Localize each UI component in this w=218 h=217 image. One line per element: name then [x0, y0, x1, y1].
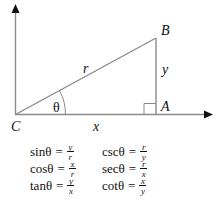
- numerator: x: [140, 177, 146, 185]
- vertex-label-c: C: [11, 120, 20, 134]
- fraction: x r: [69, 160, 76, 178]
- vertex-label-b: B: [161, 24, 170, 38]
- numerator: x: [69, 160, 75, 168]
- hypotenuse-r: [16, 38, 157, 115]
- equals-sign: =: [129, 144, 136, 160]
- function-name: cotθ: [102, 178, 124, 194]
- triangle-svg: [0, 0, 218, 140]
- side-label-x: x: [93, 120, 99, 134]
- formula-cot: cotθ = x y: [102, 177, 146, 194]
- equals-sign: =: [58, 161, 65, 177]
- fraction: y x: [67, 177, 74, 195]
- numerator: y: [67, 143, 73, 151]
- function-name: cscθ: [102, 144, 125, 160]
- equals-sign: =: [128, 178, 135, 194]
- function-name: cosθ: [30, 161, 54, 177]
- function-name: secθ: [102, 161, 125, 177]
- denominator: x: [68, 187, 74, 195]
- numerator: r: [141, 143, 147, 151]
- function-name: tanθ: [30, 178, 52, 194]
- x-axis-arrow-icon: [204, 111, 213, 119]
- denominator: y: [140, 187, 146, 195]
- formula-csc: cscθ = r y: [102, 143, 147, 160]
- formula-row-cos-sec: cosθ = x r secθ = r x: [30, 160, 210, 177]
- triangle-diagram: B y A r θ C x: [0, 0, 218, 140]
- formula-row-tan-cot: tanθ = y x cotθ = x y: [30, 177, 210, 194]
- side-label-r: r: [83, 62, 88, 76]
- right-angle-marker: [144, 104, 156, 115]
- side-label-y: y: [162, 63, 168, 77]
- fraction: r x: [140, 160, 147, 178]
- formula-sin: sinθ = y r: [30, 143, 74, 160]
- equals-sign: =: [55, 144, 62, 160]
- vertex-label-a: A: [161, 100, 170, 114]
- formula-tan: tanθ = y x: [30, 177, 74, 194]
- fraction: x y: [139, 177, 146, 195]
- formula-row-sin-csc: sinθ = y r cscθ = r y: [30, 143, 210, 160]
- equals-sign: =: [56, 178, 63, 194]
- angle-label-theta: θ: [53, 101, 60, 115]
- numerator: r: [141, 160, 147, 168]
- fraction: r y: [140, 143, 147, 161]
- theta-arc: [60, 91, 66, 115]
- y-axis-arrow-icon: [12, 4, 20, 13]
- numerator: y: [68, 177, 74, 185]
- fraction: y r: [67, 143, 74, 161]
- equals-sign: =: [129, 161, 136, 177]
- formula-sec: secθ = r x: [102, 160, 147, 177]
- function-name: sinθ: [30, 144, 51, 160]
- formula-cos: cosθ = x r: [30, 160, 76, 177]
